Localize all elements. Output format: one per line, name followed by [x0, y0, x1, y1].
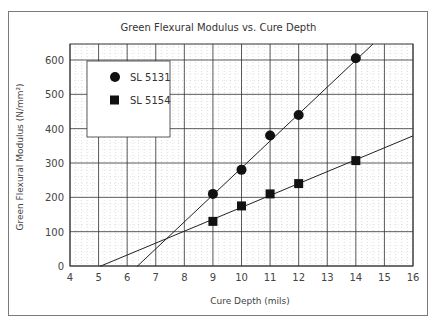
legend-square-icon [110, 96, 119, 105]
y-tick-label: 300 [45, 158, 64, 169]
x-tick-label: 10 [235, 272, 248, 283]
x-tick-label: 6 [124, 272, 130, 283]
data-point-circle [294, 110, 304, 120]
x-tick-label: 4 [67, 272, 73, 283]
fit-line [100, 136, 413, 266]
y-tick-label: 100 [45, 227, 64, 238]
fit-line [137, 44, 373, 266]
data-point-square [294, 179, 303, 188]
y-tick-label: 200 [45, 192, 64, 203]
x-tick-label: 16 [407, 272, 420, 283]
x-tick-label: 7 [153, 272, 159, 283]
data-point-circle [351, 53, 361, 63]
x-tick-label: 8 [181, 272, 187, 283]
plot-area: 456789101112131415160100200300400500600S… [0, 0, 437, 327]
data-point-square [208, 217, 217, 226]
x-axis-label: Cure Depth (mils) [130, 296, 370, 306]
y-axis-label: Green Flexural Modulus (N/mm²) [15, 77, 25, 237]
x-tick-label: 11 [264, 272, 277, 283]
y-tick-label: 500 [45, 89, 64, 100]
data-point-circle [265, 131, 275, 141]
legend-label: SL 5131 [130, 72, 171, 83]
y-tick-label: 400 [45, 124, 64, 135]
data-point-square [266, 189, 275, 198]
x-tick-label: 13 [321, 272, 334, 283]
legend-circle-icon [110, 72, 120, 82]
data-point-square [237, 201, 246, 210]
legend-label: SL 5154 [130, 95, 171, 106]
data-point-circle [237, 165, 247, 175]
x-tick-label: 5 [95, 272, 101, 283]
x-tick-label: 9 [210, 272, 216, 283]
data-point-circle [208, 189, 218, 199]
x-tick-label: 14 [349, 272, 362, 283]
x-tick-label: 15 [378, 272, 391, 283]
x-tick-label: 12 [292, 272, 305, 283]
y-tick-label: 600 [45, 55, 64, 66]
y-tick-label: 0 [58, 261, 64, 272]
data-point-square [351, 156, 360, 165]
